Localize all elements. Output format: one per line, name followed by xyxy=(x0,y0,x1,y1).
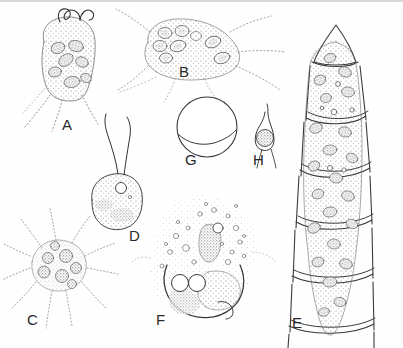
figure-g-drawing xyxy=(177,97,237,157)
figure-b-drawing xyxy=(116,9,286,102)
figure-label-b: B xyxy=(179,64,190,79)
plate-drawing xyxy=(0,0,403,348)
figure-e-drawing xyxy=(288,25,375,348)
figure-label-c: C xyxy=(27,312,38,327)
figure-d-drawing xyxy=(92,114,143,230)
figure-label-a: A xyxy=(62,117,73,132)
figure-f-drawing xyxy=(132,196,276,319)
figure-label-e: E xyxy=(292,315,303,330)
figure-label-f: F xyxy=(156,312,166,327)
figure-label-g: G xyxy=(185,152,197,167)
illustration-plate: A B C D E F G H xyxy=(0,0,403,348)
figure-c-drawing xyxy=(2,208,118,328)
figure-label-d: D xyxy=(129,228,140,243)
figure-a-drawing xyxy=(23,9,98,131)
figure-label-h: H xyxy=(253,152,264,167)
